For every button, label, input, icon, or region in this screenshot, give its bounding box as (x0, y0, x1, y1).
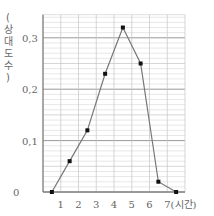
y-tick-label: 0 (13, 187, 19, 198)
data-point (139, 62, 143, 66)
x-tick-label: 6 (146, 199, 152, 210)
data-point (50, 190, 54, 194)
x-tick-label: 3 (93, 199, 99, 210)
data-point (85, 128, 89, 132)
y-tick-label: 0,2 (22, 84, 38, 95)
x-tick-label: 5 (129, 199, 135, 210)
x-tick-label: 1 (58, 199, 64, 210)
x-tick-label: 2 (75, 199, 81, 210)
grid (43, 15, 185, 192)
data-point (103, 72, 107, 76)
x-tick-label: 7(시간) (164, 199, 196, 210)
data-point (68, 159, 72, 163)
data-point (121, 26, 125, 30)
y-tick-label: 0,1 (22, 136, 38, 147)
x-tick-label: 4 (111, 199, 117, 210)
data-point (174, 190, 178, 194)
y-tick-label: 0,3 (22, 33, 38, 44)
tick-labels: 1234567(시간)00,10,20,3 (13, 33, 197, 210)
data-point (156, 180, 160, 184)
line-chart: 1234567(시간)00,10,20,3 (0, 0, 214, 216)
